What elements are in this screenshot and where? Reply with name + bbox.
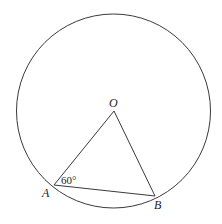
geometry-figure: O A B 60° — [0, 0, 222, 224]
segment-AB — [54, 185, 155, 196]
label-point-O: O — [109, 96, 118, 110]
label-point-B: B — [154, 198, 162, 212]
label-point-A: A — [41, 186, 50, 200]
segment-OB — [114, 111, 155, 196]
angle-label-A: 60° — [61, 174, 76, 186]
